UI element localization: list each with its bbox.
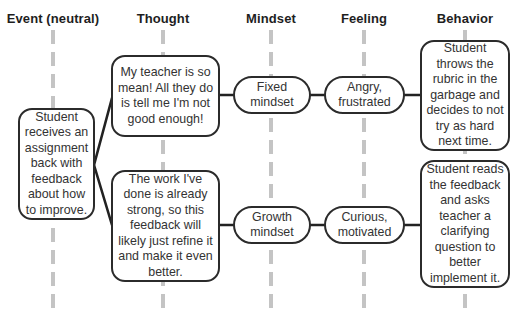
connector-event-to-growth-thought (94, 165, 112, 225)
fixed-thought-box: My teacher is so mean! All they do is te… (111, 55, 220, 137)
curious-feeling-text: Curious, motivated (332, 210, 398, 241)
connector-event-to-fixed-thought (94, 98, 112, 165)
event-box: Student receives an assignment back with… (18, 108, 95, 220)
curious-feeling-box: Curious, motivated (324, 206, 405, 244)
fixed-mindset-text: Fixed mindset (247, 80, 297, 111)
growth-thought-box: The work I've done is already strong, so… (111, 170, 220, 282)
growth-mindset-text: Growth mindset (247, 210, 297, 241)
fixed-thought-text: My teacher is so mean! All they do is te… (117, 65, 214, 127)
growth-behavior-text: Student reads the feedback and asks teac… (426, 162, 504, 286)
fixed-behavior-box: Student throws the rubric in the garbage… (420, 40, 510, 151)
growth-behavior-box: Student reads the feedback and asks teac… (420, 160, 510, 288)
growth-mindset-box: Growth mindset (233, 206, 311, 244)
event-text: Student receives an assignment back with… (24, 110, 89, 219)
fixed-behavior-text: Student throws the rubric in the garbage… (426, 41, 504, 150)
growth-thought-text: The work I've done is already strong, so… (117, 172, 214, 281)
angry-feeling-box: Angry, frustrated (324, 76, 405, 114)
angry-feeling-text: Angry, frustrated (332, 80, 398, 111)
fixed-mindset-box: Fixed mindset (233, 76, 311, 114)
